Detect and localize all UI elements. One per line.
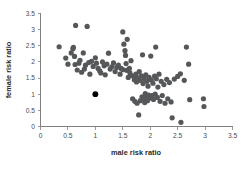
scatter-chart: 00.511.522.533.5 00.511.522.533.5 male r… [0, 0, 250, 171]
data-point [73, 23, 78, 28]
data-point [71, 45, 76, 50]
data-point [122, 48, 127, 53]
data-point [148, 54, 153, 59]
data-point [111, 60, 116, 65]
data-point [123, 53, 128, 58]
data-point [125, 37, 130, 42]
data-point [155, 85, 160, 90]
x-tick-label: 3 [203, 132, 207, 139]
highlighted-data-point [92, 91, 98, 97]
data-point [63, 55, 68, 60]
data-point [145, 84, 150, 89]
data-point [178, 120, 183, 125]
y-tick-label: 2 [31, 58, 35, 65]
data-point [57, 44, 62, 49]
data-point [75, 67, 80, 72]
x-tick-label: 0 [39, 132, 43, 139]
y-tick-label: 0 [31, 123, 35, 130]
data-point [170, 115, 175, 120]
data-point [85, 24, 90, 29]
y-tick-label: 0.5 [26, 107, 35, 114]
x-tick-label: 1.5 [118, 132, 127, 139]
data-point [150, 81, 155, 86]
data-point [136, 112, 141, 117]
data-point [140, 52, 145, 57]
data-point [187, 97, 192, 102]
data-point [153, 44, 158, 49]
x-tick-label: 3.5 [228, 132, 237, 139]
data-point [186, 62, 191, 67]
data-point [160, 93, 165, 98]
data-point [104, 62, 109, 67]
data-point [94, 61, 99, 66]
plot-svg: 00.511.522.533.5 00.511.522.533.5 male r… [0, 0, 250, 171]
data-point [121, 42, 126, 47]
y-tick-label: 1 [31, 91, 35, 98]
data-point [72, 54, 77, 59]
data-point [77, 58, 82, 63]
data-point [93, 55, 98, 60]
x-axis-title: male risk ratio [111, 148, 162, 157]
data-point [89, 59, 94, 64]
data-point [123, 61, 128, 66]
data-point [120, 29, 125, 34]
y-tick-label: 2.5 [26, 42, 35, 49]
data-point [128, 58, 133, 63]
data-point [161, 82, 166, 87]
y-tick-label: 3.5 [26, 10, 35, 17]
data-point [65, 62, 70, 67]
x-axis-ticks: 00.511.522.533.5 [39, 127, 238, 140]
x-tick-label: 1 [94, 132, 98, 139]
y-axis-ticks: 00.511.522.533.5 [26, 10, 41, 130]
data-point [167, 80, 172, 85]
y-axis-title: female risk ratio [4, 41, 13, 98]
data-point [156, 72, 161, 77]
data-point [87, 72, 92, 77]
data-point [103, 72, 108, 77]
data-point [184, 44, 189, 49]
data-point [182, 78, 187, 83]
data-point [178, 71, 183, 76]
data-point [117, 72, 122, 77]
data-point [162, 101, 167, 106]
y-tick-label: 1.5 [26, 74, 35, 81]
x-tick-label: 0.5 [63, 132, 72, 139]
data-point [157, 99, 162, 104]
data-point [81, 50, 86, 55]
data-point [127, 66, 132, 71]
x-tick-label: 2 [148, 132, 152, 139]
data-point [201, 104, 206, 109]
data-points [57, 23, 207, 125]
data-point [154, 76, 159, 81]
x-tick-label: 2.5 [173, 132, 182, 139]
data-point [201, 96, 206, 101]
data-point [168, 99, 173, 104]
data-point [106, 51, 111, 56]
y-tick-label: 3 [31, 26, 35, 33]
